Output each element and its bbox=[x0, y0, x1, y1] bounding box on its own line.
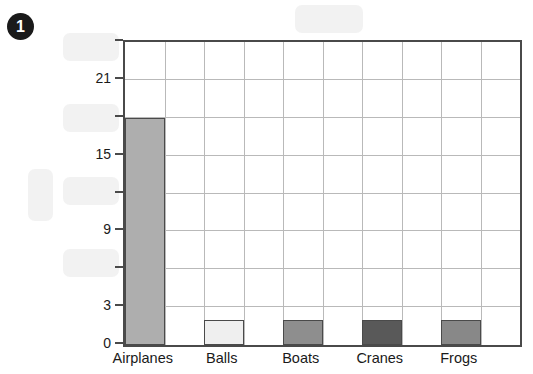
y-axis: 0391521 bbox=[0, 40, 123, 347]
vertical-gridline bbox=[402, 42, 403, 345]
chart-title-redaction bbox=[295, 5, 363, 33]
x-tick-label-balls: Balls bbox=[206, 350, 237, 366]
bar-frogs bbox=[441, 320, 481, 345]
bar-balls bbox=[204, 320, 244, 345]
x-axis: AirplanesBallsBoatsCranesFrogs bbox=[123, 350, 522, 374]
vertical-gridline bbox=[283, 42, 284, 345]
y-tick-mark bbox=[115, 342, 123, 344]
vertical-gridline bbox=[481, 42, 482, 345]
horizontal-gridline bbox=[125, 268, 520, 269]
y-tick-mark bbox=[115, 191, 123, 193]
horizontal-gridline bbox=[125, 79, 520, 80]
horizontal-gridline bbox=[125, 193, 520, 194]
x-tick-label-cranes: Cranes bbox=[356, 350, 403, 366]
y-tick-mark bbox=[115, 77, 123, 79]
y-tick-label-0: 0 bbox=[103, 335, 111, 351]
y-tick-mark bbox=[115, 304, 123, 306]
bar-cranes bbox=[362, 320, 402, 345]
x-tick-label-frogs: Frogs bbox=[440, 350, 477, 366]
chart-plot-area bbox=[123, 40, 522, 347]
horizontal-gridline bbox=[125, 155, 520, 156]
x-tick-label-airplanes: Airplanes bbox=[113, 350, 173, 366]
y-tick-mark bbox=[115, 153, 123, 155]
y-tick-mark bbox=[115, 266, 123, 268]
y-tick-label-15: 15 bbox=[95, 146, 111, 162]
vertical-gridline bbox=[323, 42, 324, 345]
vertical-gridline bbox=[362, 42, 363, 345]
bar-airplanes bbox=[125, 118, 165, 345]
y-tick-mark bbox=[115, 228, 123, 230]
vertical-gridline bbox=[165, 42, 166, 345]
bar-boats bbox=[283, 320, 323, 345]
horizontal-gridline bbox=[125, 306, 520, 307]
y-tick-mark bbox=[115, 115, 123, 117]
vertical-gridline bbox=[441, 42, 442, 345]
x-tick-label-boats: Boats bbox=[282, 350, 319, 366]
vertical-gridline bbox=[244, 42, 245, 345]
y-tick-mark bbox=[115, 39, 123, 41]
vertical-gridline bbox=[204, 42, 205, 345]
horizontal-gridline bbox=[125, 117, 520, 118]
y-tick-label-21: 21 bbox=[95, 70, 111, 86]
horizontal-gridline bbox=[125, 230, 520, 231]
y-tick-label-9: 9 bbox=[103, 221, 111, 237]
question-number-badge: 1 bbox=[7, 13, 34, 40]
y-tick-label-3: 3 bbox=[103, 297, 111, 313]
